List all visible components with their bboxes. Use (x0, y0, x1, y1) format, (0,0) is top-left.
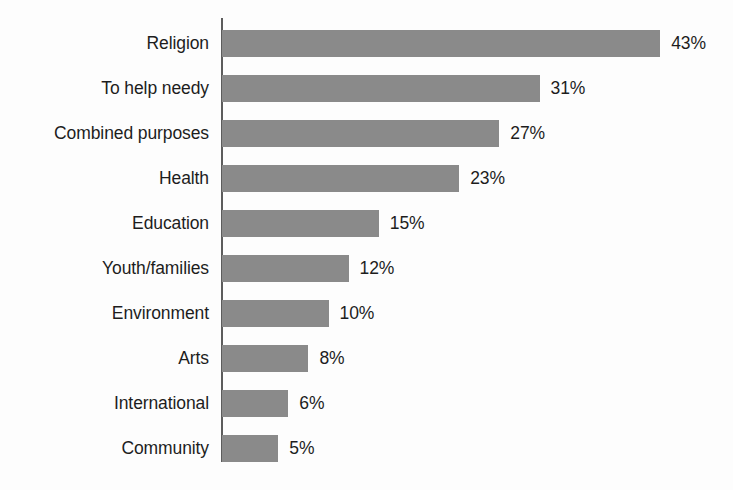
bar-row: Arts8% (0, 336, 733, 381)
bar (222, 165, 459, 192)
bar-row: Environment10% (0, 291, 733, 336)
bar-and-value: 43% (222, 30, 706, 57)
bar-row: Education15% (0, 201, 733, 246)
value-label: 15% (390, 213, 425, 234)
bar-and-value: 23% (222, 165, 505, 192)
bar-row: International6% (0, 381, 733, 426)
bar-row: Health23% (0, 156, 733, 201)
bar (222, 435, 278, 462)
value-label: 10% (340, 303, 375, 324)
bar-and-value: 12% (222, 255, 394, 282)
bar-row: Youth/families12% (0, 246, 733, 291)
bar (222, 210, 379, 237)
category-label: Religion (0, 21, 209, 66)
value-label: 31% (551, 78, 586, 99)
value-label: 8% (319, 348, 344, 369)
category-label: Youth/families (0, 246, 209, 291)
bar-and-value: 8% (222, 345, 344, 372)
bar-and-value: 15% (222, 210, 424, 237)
category-label: Environment (0, 291, 209, 336)
bar-chart: Religion43%To help needy31%Combined purp… (0, 0, 733, 490)
category-label: Education (0, 201, 209, 246)
category-label: Arts (0, 336, 209, 381)
bar (222, 255, 349, 282)
category-label: International (0, 381, 209, 426)
value-label: 43% (671, 33, 706, 54)
value-label: 6% (299, 393, 324, 414)
bar (222, 120, 499, 147)
bar (222, 300, 329, 327)
category-label: Community (0, 426, 209, 471)
bar (222, 390, 288, 417)
bar-and-value: 27% (222, 120, 545, 147)
category-label: To help needy (0, 66, 209, 111)
bar-row: Combined purposes27% (0, 111, 733, 156)
plot-area: Religion43%To help needy31%Combined purp… (0, 0, 733, 490)
value-label: 27% (510, 123, 545, 144)
value-label: 23% (470, 168, 505, 189)
value-label: 5% (289, 438, 314, 459)
bar-and-value: 10% (222, 300, 374, 327)
bar (222, 345, 308, 372)
bar (222, 30, 660, 57)
category-label: Health (0, 156, 209, 201)
bar-and-value: 6% (222, 390, 324, 417)
bar-row: Community5% (0, 426, 733, 471)
bar-row: Religion43% (0, 21, 733, 66)
bar-and-value: 5% (222, 435, 314, 462)
bar-row: To help needy31% (0, 66, 733, 111)
bar (222, 75, 540, 102)
value-label: 12% (360, 258, 395, 279)
category-label: Combined purposes (0, 111, 209, 156)
bar-and-value: 31% (222, 75, 585, 102)
